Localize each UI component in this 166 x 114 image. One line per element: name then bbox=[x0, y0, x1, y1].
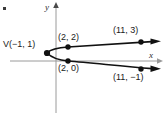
label-point-2-0: (2, 0) bbox=[58, 64, 79, 73]
point-marker-11-neg1 bbox=[138, 66, 143, 71]
point-marker-vertex bbox=[44, 50, 50, 56]
label-vertex: V(−1, 1) bbox=[3, 40, 35, 49]
point-marker-2-2 bbox=[65, 44, 70, 49]
y-axis-arrowhead bbox=[53, 2, 59, 8]
point-marker-11-3 bbox=[138, 39, 143, 44]
graph-canvas bbox=[0, 0, 166, 114]
upper-branch-arrowhead bbox=[151, 38, 162, 44]
lower-branch-arrowhead bbox=[151, 66, 162, 73]
label-point-11-neg1: (11, −1) bbox=[113, 73, 144, 82]
x-axis-label: x bbox=[149, 51, 153, 60]
label-point-2-2: (2, 2) bbox=[58, 33, 79, 42]
parabola-figure: V(−1, 1) (2, 2) (2, 0) (11, 3) (11, −1) … bbox=[0, 0, 166, 114]
upper-branch-path bbox=[47, 42, 152, 53]
label-point-11-3: (11, 3) bbox=[113, 26, 138, 35]
corner-speck-artifact bbox=[3, 7, 6, 10]
x-axis-arrowhead bbox=[157, 58, 163, 64]
y-axis-label: y bbox=[45, 3, 49, 12]
